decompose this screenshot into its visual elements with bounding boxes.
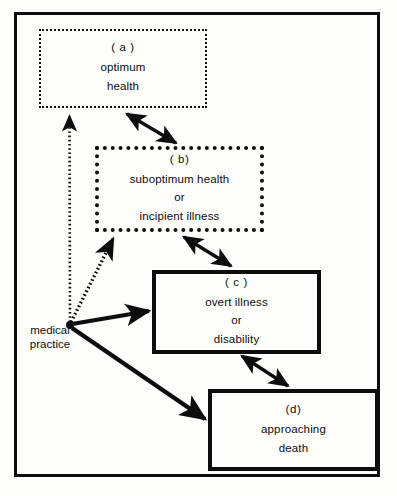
node-box-c: ( c ) overt illness or disability xyxy=(152,270,321,354)
node-c-tag: ( c ) xyxy=(225,276,248,288)
node-a-tag: ( a ) xyxy=(111,41,134,53)
node-c-line-3: disability xyxy=(214,330,260,349)
node-b-line-1: suboptimum health xyxy=(130,170,230,189)
node-d-tag: (d) xyxy=(286,403,302,415)
diagram-figure: ( a ) optimum health ( b) suboptimum hea… xyxy=(0,0,397,496)
node-box-a: ( a ) optimum health xyxy=(39,29,207,108)
node-b-line-2: or xyxy=(174,188,185,207)
node-box-b: ( b) suboptimum health or incipient illn… xyxy=(95,146,264,232)
node-box-d: (d) approaching death xyxy=(208,389,379,471)
node-c-line-1: overt illness xyxy=(205,293,268,312)
node-a-line-2: health xyxy=(107,77,139,96)
node-b-tag: ( b) xyxy=(170,153,190,165)
medical-practice-line-1: medical xyxy=(19,324,81,338)
node-b-line-3: incipient illness xyxy=(140,207,220,226)
node-d-line-2: death xyxy=(279,439,309,458)
medical-practice-label: medical practice xyxy=(19,324,81,351)
node-a-line-1: optimum xyxy=(100,58,145,77)
node-d-line-1: approaching xyxy=(261,420,326,439)
medical-practice-line-2: practice xyxy=(19,338,81,352)
node-c-line-2: or xyxy=(231,311,242,330)
